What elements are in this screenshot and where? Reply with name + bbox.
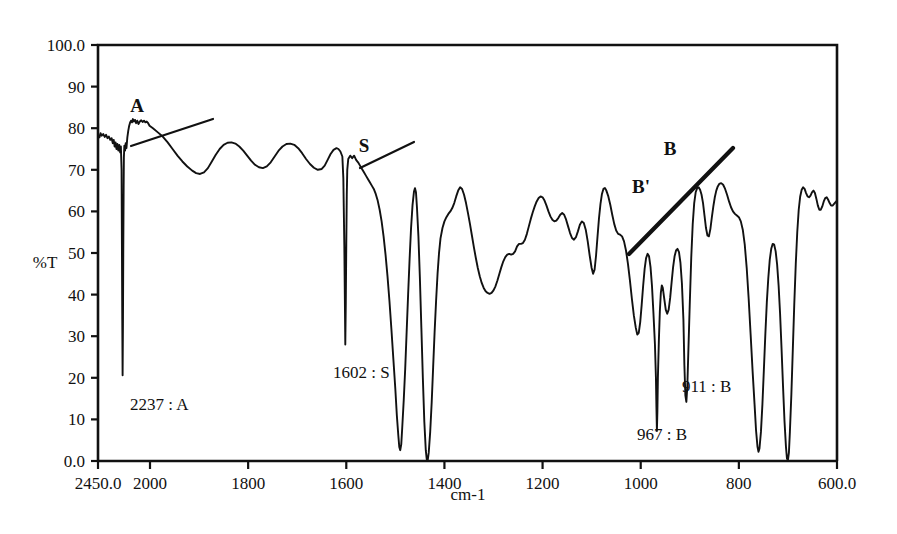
y-tick-label: 70 xyxy=(68,161,85,180)
label-B: B xyxy=(664,138,677,159)
y-tick-label: 50 xyxy=(68,244,85,263)
y-tick-label: 80 xyxy=(68,119,85,138)
y-tick-label: 30 xyxy=(68,327,85,346)
x-tick-label: 1600 xyxy=(329,474,363,493)
ftir-spectrum-figure: 100.09080706050403020100.0 2450.02000180… xyxy=(0,0,897,534)
x-tick-label: 2450.0 xyxy=(75,474,122,493)
x-tick-label: 1200 xyxy=(526,474,560,493)
annotation-peak-2237: 2237 : A xyxy=(130,395,189,414)
y-tick-label: 10 xyxy=(68,410,85,429)
y-tick-label: 20 xyxy=(68,369,85,388)
x-tick-label: 800 xyxy=(726,474,752,493)
y-tick-label: 0.0 xyxy=(64,452,85,471)
y-tick-label: 90 xyxy=(68,78,85,97)
x-tick-label: 1800 xyxy=(231,474,265,493)
chart-background xyxy=(0,0,897,534)
label-A: A xyxy=(130,95,144,116)
y-axis-title: %T xyxy=(33,253,58,272)
label-S: S xyxy=(359,135,370,156)
label-B-prime: B' xyxy=(632,176,650,197)
x-tick-label: 600.0 xyxy=(818,474,856,493)
y-tick-label: 60 xyxy=(68,202,85,221)
annotation-peak-1602: 1602 : S xyxy=(333,363,390,382)
x-tick-label: 1000 xyxy=(624,474,658,493)
x-axis-title: cm-1 xyxy=(451,485,486,504)
annotation-peak-911: 911 : B xyxy=(682,377,731,396)
y-tick-label: 40 xyxy=(68,286,85,305)
x-tick-label: 2000 xyxy=(133,474,167,493)
annotation-peak-967: 967 : B xyxy=(637,425,687,444)
y-tick-label: 100.0 xyxy=(47,36,85,55)
spectrum-chart-canvas: 100.09080706050403020100.0 2450.02000180… xyxy=(0,0,897,534)
